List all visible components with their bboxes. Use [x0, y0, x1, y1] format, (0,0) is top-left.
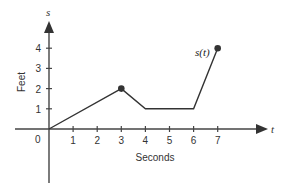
data-point-marker: [214, 45, 221, 52]
x-tick-label: 1: [70, 135, 76, 146]
series-line: [49, 48, 218, 129]
x-axis-arrow-icon: [256, 124, 268, 134]
y-tick-label: 4: [35, 43, 41, 54]
y-tick-label: 2: [35, 84, 41, 95]
data-point-marker: [118, 85, 125, 92]
y-axis-title: Feet: [16, 72, 27, 92]
x-tick-label: 7: [215, 135, 221, 146]
origin-label: 0: [35, 134, 41, 145]
x-tick-label: 4: [143, 135, 149, 146]
position-time-chart: t s 0 1234567 1234 Seconds Feet s(t): [0, 0, 281, 190]
x-tick-label: 6: [191, 135, 197, 146]
y-tick-label: 1: [35, 104, 41, 115]
x-tick-label: 5: [167, 135, 173, 146]
x-tick-label: 3: [119, 135, 125, 146]
x-tick-label: 2: [94, 135, 100, 146]
y-axis-letter: s: [46, 6, 50, 18]
y-tick-label: 3: [35, 63, 41, 74]
x-axis-title: Seconds: [136, 152, 175, 163]
x-axis-letter: t: [271, 123, 275, 135]
series-label: s(t): [195, 46, 210, 59]
y-axis-arrow-icon: [44, 21, 54, 33]
